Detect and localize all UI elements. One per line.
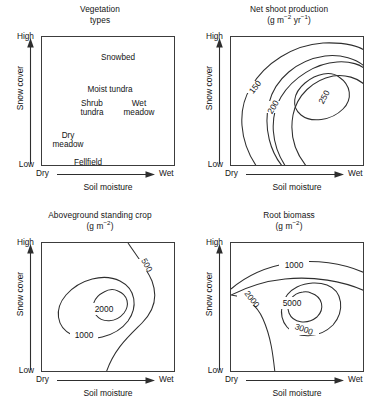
panel-title-line-1: Aboveground standing crop: [14, 210, 186, 221]
units-exponent-1: −2: [103, 219, 110, 226]
panel-root-biomass: Root biomass (g m−2) High Low Snow cover: [189, 206, 378, 412]
contour-path-200: [273, 62, 364, 166]
x-axis-dry-label: Dry: [36, 374, 49, 384]
x-axis-arrow-icon: [57, 170, 155, 179]
x-axis-title: Soil moisture: [28, 182, 188, 192]
units-suffix: ): [300, 221, 303, 231]
y-axis-arrow-icon: [26, 244, 35, 372]
y-axis-arrow-icon: [215, 244, 224, 372]
units-exponent-1: −2: [292, 219, 299, 226]
veg-label-tundra: tundra: [80, 108, 103, 118]
y-axis-arrow-icon: [26, 38, 35, 166]
contour-lines-aboveground-standing-crop: 500 1000 2000: [42, 243, 175, 372]
contour-lines-root-biomass: 1000 2000 3000 5000: [231, 243, 364, 372]
y-axis-title: Snow cover: [15, 239, 25, 349]
x-axis-dry-label: Dry: [36, 168, 49, 178]
units-prefix: (g m: [267, 15, 284, 25]
panel-title-net-shoot-production: Net shoot production (g m−2 yr−1): [203, 4, 375, 25]
units-prefix: (g m: [87, 221, 104, 231]
units-exponent-2: −1: [301, 13, 308, 20]
x-axis-dry-label: Dry: [225, 374, 238, 384]
x-axis-arrow-icon: [57, 376, 155, 385]
panel-vegetation-types: Vegetation types High Low Snow cover Sno…: [0, 0, 189, 206]
y-axis-title: Snow cover: [204, 239, 214, 349]
units-suffix: ): [111, 221, 114, 231]
contour-label-250: 250: [313, 88, 335, 105]
x-axis-dry-label: Dry: [225, 168, 238, 178]
y-axis-arrow-icon: [215, 38, 224, 166]
x-axis-arrow-icon: [246, 170, 344, 179]
contour-label-500: 500: [136, 256, 158, 273]
panel-title-line-2: types: [14, 15, 186, 26]
plot-area-vegetation-types: Snowbed Moist tundra Shrub tundra Wet me…: [41, 36, 175, 166]
veg-label-fellfield: Fellfield: [74, 158, 102, 166]
plot-area-root-biomass: 1000 2000 3000 5000: [230, 242, 364, 372]
svg-text:5000: 5000: [283, 298, 302, 308]
veg-label-snowbed: Snowbed: [101, 53, 135, 63]
veg-label-moist-tundra: Moist tundra: [87, 85, 132, 95]
panel-title-root-biomass: Root biomass (g m−2): [203, 210, 375, 231]
units-prefix: (g m: [276, 221, 293, 231]
svg-text:2000: 2000: [95, 304, 114, 314]
panel-title-line-1: Root biomass: [203, 210, 375, 221]
svg-text:1000: 1000: [285, 260, 304, 270]
panel-title-vegetation-types: Vegetation types: [14, 4, 186, 25]
x-axis-wet-label: Wet: [159, 168, 174, 178]
panel-aboveground-standing-crop: Aboveground standing crop (g m−2) High L…: [0, 206, 189, 412]
contour-label-1000: 1000: [70, 329, 98, 341]
x-axis-title: Soil moisture: [217, 388, 377, 398]
panel-title-units: (g m−2): [203, 221, 375, 232]
units-middle: yr: [291, 15, 300, 25]
plot-area-net-shoot-production: 150 200 250: [230, 36, 364, 166]
contour-label-2000: 2000: [237, 289, 267, 310]
panel-net-shoot-production: Net shoot production (g m−2 yr−1) High L…: [189, 0, 378, 206]
contour-label-150: 150: [244, 78, 266, 95]
x-axis-wet-label: Wet: [348, 374, 363, 384]
x-axis-arrow-icon: [246, 376, 344, 385]
panel-title-aboveground-standing-crop: Aboveground standing crop (g m−2): [14, 210, 186, 231]
x-axis-title: Soil moisture: [217, 182, 377, 192]
y-axis-title: Snow cover: [204, 33, 214, 143]
x-axis-wet-label: Wet: [348, 168, 363, 178]
svg-text:1000: 1000: [75, 330, 94, 340]
contour-path-150: [242, 43, 364, 166]
plot-area-aboveground-standing-crop: 500 1000 2000: [41, 242, 175, 372]
veg-label-meadow: meadow: [124, 108, 155, 118]
contour-label-1000: 1000: [279, 259, 309, 271]
veg-label-dry-meadow: meadow: [53, 140, 84, 150]
panel-title-units: (g m−2 yr−1): [203, 15, 375, 26]
y-axis-title: Snow cover: [15, 33, 25, 143]
panel-title-units: (g m−2): [14, 221, 186, 232]
contour-label-200: 200: [262, 98, 284, 115]
contour-label-2000: 2000: [90, 303, 118, 315]
figure-contour-panels: Vegetation types High Low Snow cover Sno…: [0, 0, 378, 412]
panel-title-line-1: Vegetation: [14, 4, 186, 15]
x-axis-title: Soil moisture: [28, 388, 188, 398]
contour-label-3000: 3000: [289, 321, 319, 337]
contour-label-5000: 5000: [277, 297, 307, 309]
contour-lines-net-shoot-production: 150 200 250: [231, 37, 364, 166]
units-suffix: ): [308, 15, 311, 25]
x-axis-wet-label: Wet: [159, 374, 174, 384]
